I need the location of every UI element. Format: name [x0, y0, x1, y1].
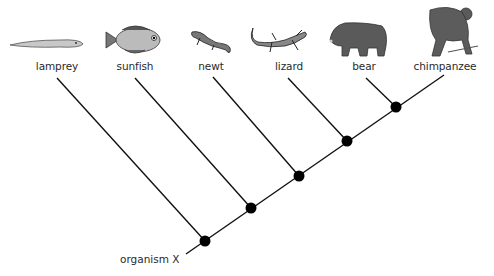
branch-sunfish [135, 78, 251, 208]
sunfish-icon [106, 26, 160, 53]
newt-icon [192, 32, 231, 53]
chimpanzee-icon [430, 7, 478, 56]
bear-icon [329, 23, 386, 56]
taxon-label-bear: bear [352, 60, 375, 72]
lizard-icon [251, 28, 306, 52]
node-5 [391, 102, 402, 113]
taxon-label-lizard: lizard [275, 60, 303, 72]
cladogram [0, 0, 494, 276]
node-4 [342, 136, 353, 147]
node-3 [294, 171, 305, 182]
taxon-label-newt: newt [198, 60, 223, 72]
taxon-label-sunfish: sunfish [117, 60, 154, 72]
branch-bear [366, 78, 396, 107]
lamprey-icon [10, 40, 83, 47]
taxon-label-lamprey: lamprey [36, 60, 78, 72]
node-2 [246, 203, 257, 214]
taxon-label-chimpanzee: chimpanzee [414, 60, 477, 72]
branch-lizard [288, 78, 347, 141]
node-1 [200, 236, 211, 247]
root-label: organism X [120, 253, 179, 265]
trunk-line [186, 75, 444, 254]
branch-newt [213, 77, 299, 176]
branch-lamprey [57, 78, 205, 241]
